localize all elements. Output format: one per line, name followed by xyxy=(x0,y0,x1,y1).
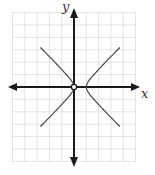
y-axis-label: y xyxy=(62,0,69,13)
open-circle-origin xyxy=(71,84,76,89)
y-axis-bottom-arrow-icon xyxy=(70,157,78,167)
x-axis-label: x xyxy=(141,87,148,100)
graph xyxy=(0,0,155,175)
y-axis-top-arrow-icon xyxy=(70,8,78,18)
